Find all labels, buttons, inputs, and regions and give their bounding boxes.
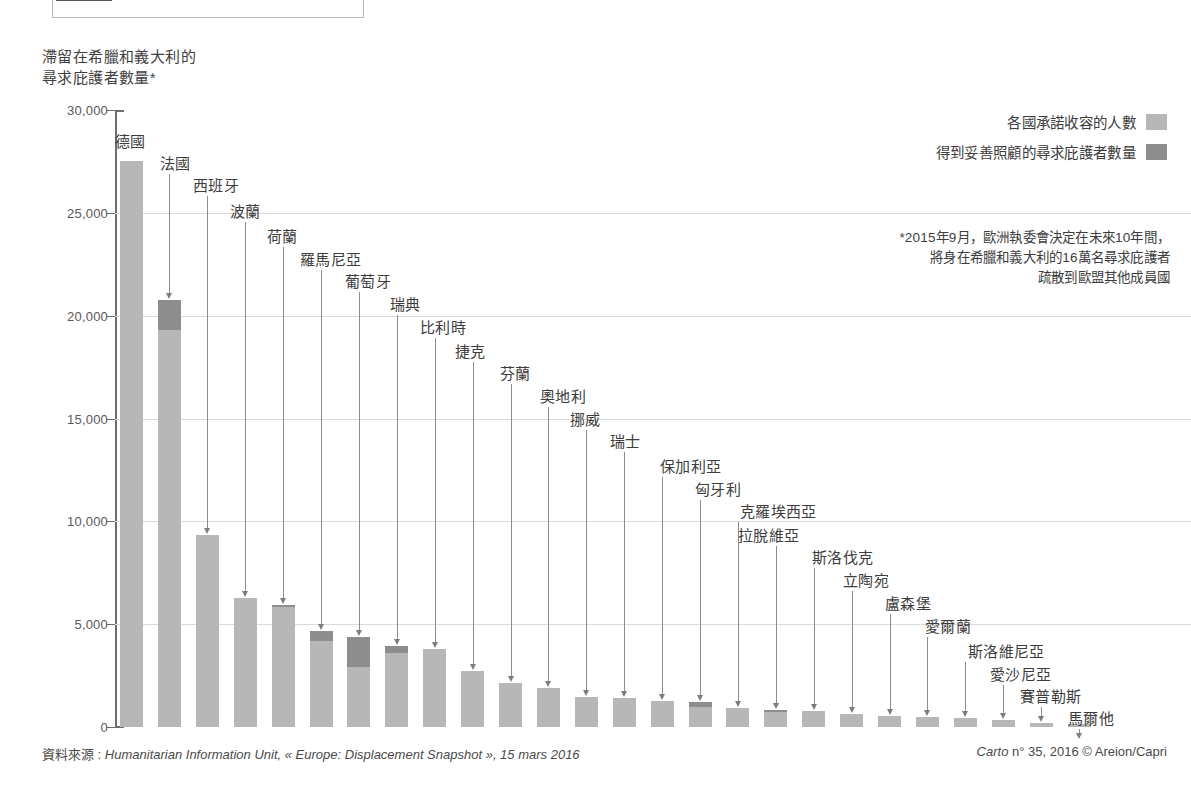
country-label-6: 葡萄牙 (345, 270, 391, 291)
bar-segment-pledged (423, 649, 446, 727)
legend-item-0: 各國承諾收容的人數 (1007, 111, 1167, 132)
leader-arrowhead (318, 624, 324, 630)
bar (802, 711, 825, 727)
bar (272, 605, 295, 727)
source-citation: Humanitarian Information Unit, « Europe:… (105, 747, 580, 762)
leader-arrowhead (1038, 716, 1044, 722)
leader-arrowhead (356, 630, 362, 636)
y-tick-label: 30,000 (36, 103, 108, 118)
footnote-line-1: 將身在希臘和義大利的16萬名尋求庇護者 (700, 248, 1170, 268)
legend-label: 各國承諾收容的人數 (1007, 111, 1136, 132)
source-note: 資料來源 : Humanitarian Information Unit, « … (42, 744, 580, 763)
country-label-18: 斯洛伐克 (812, 546, 873, 567)
country-label-25: 馬爾他 (1068, 707, 1114, 728)
gridline (115, 316, 1191, 317)
country-label-1: 法國 (160, 152, 191, 173)
bar-segment-pledged (234, 598, 257, 727)
leader-line (965, 662, 966, 711)
leader-line (586, 430, 587, 690)
bar (726, 708, 749, 727)
country-label-12: 挪威 (570, 408, 601, 429)
bar (347, 637, 370, 727)
leader-line (927, 637, 928, 710)
bar-segment-relocated (158, 300, 181, 330)
bar (423, 649, 446, 727)
bar-segment-relocated (272, 605, 295, 607)
bar (196, 535, 219, 727)
bar (1030, 723, 1053, 727)
country-label-23: 愛沙尼亞 (990, 663, 1051, 684)
leader-line (283, 247, 284, 598)
country-label-14: 保加利亞 (660, 455, 721, 476)
leader-line (662, 477, 663, 694)
leader-line (738, 522, 739, 701)
legend-item-1: 得到妥善照顧的尋求庇護者數量 (936, 141, 1167, 162)
leader-line (321, 270, 322, 624)
bar (689, 702, 712, 727)
leader-arrowhead (962, 711, 968, 717)
leader-line (359, 292, 360, 630)
bar-segment-pledged (954, 718, 977, 727)
leader-arrowhead (432, 642, 438, 648)
bar (764, 710, 787, 727)
country-label-3: 波蘭 (230, 200, 261, 221)
bar-segment-pledged (726, 708, 749, 727)
leader-arrowhead (697, 695, 703, 701)
country-label-15: 匈牙利 (695, 478, 741, 499)
country-label-11: 奧地利 (540, 385, 586, 406)
leader-line (852, 591, 853, 707)
leader-arrowhead (470, 664, 476, 670)
leader-arrowhead (621, 691, 627, 697)
bar-segment-pledged (992, 720, 1015, 727)
leader-arrowhead (849, 707, 855, 713)
bar (158, 300, 181, 727)
y-axis-cap-top (115, 110, 124, 112)
leader-line (435, 338, 436, 642)
bar (537, 688, 560, 727)
leader-line (473, 362, 474, 664)
country-label-16: 克羅埃西亞 (740, 500, 817, 521)
leader-arrowhead (659, 694, 665, 700)
bar (461, 671, 484, 727)
credit-note: Carto n° 35, 2016 © Areion/Capri (977, 744, 1167, 759)
country-label-4: 荷蘭 (267, 225, 298, 246)
leader-arrowhead (545, 681, 551, 687)
bar (878, 716, 901, 727)
y-tick-label: 10,000 (36, 514, 108, 529)
gridline (115, 419, 1191, 420)
bar-segment-pledged (916, 717, 939, 727)
country-label-2: 西班牙 (193, 174, 239, 195)
footnote-line-0: *2015年9月，歐洲執委會決定在未來10年間， (700, 228, 1170, 248)
bar-segment-pledged (613, 698, 636, 727)
country-label-7: 瑞典 (390, 293, 421, 314)
leader-arrowhead (280, 598, 286, 604)
bar (992, 720, 1015, 727)
country-label-10: 芬蘭 (500, 362, 531, 383)
leader-line (511, 384, 512, 676)
bar-segment-pledged (575, 697, 598, 727)
country-label-21: 愛爾蘭 (925, 615, 971, 636)
bar-segment-pledged (385, 646, 408, 727)
leader-arrowhead (583, 690, 589, 696)
country-label-24: 賽普勒斯 (1020, 685, 1081, 706)
bar-segment-relocated (347, 637, 370, 667)
gridline (115, 521, 1191, 522)
bar-segment-pledged (310, 631, 333, 727)
leader-arrowhead (242, 591, 248, 597)
leader-line (624, 452, 625, 691)
bar-segment-relocated (764, 710, 787, 712)
leader-arrowhead (773, 703, 779, 709)
leader-arrowhead (735, 701, 741, 707)
footnote-line-2: 疏散到歐盟其他成員國 (700, 268, 1170, 288)
leader-line (548, 407, 549, 681)
bar-segment-pledged (840, 714, 863, 727)
leader-line (397, 315, 398, 639)
bar (310, 631, 333, 727)
bar-segment-relocated (689, 702, 712, 707)
leader-arrowhead (1000, 713, 1006, 719)
bar-segment-pledged (537, 688, 560, 727)
leader-arrowhead (811, 704, 817, 710)
leader-arrowhead (1076, 733, 1082, 739)
bar-segment-pledged (461, 671, 484, 727)
bar-segment-pledged (120, 161, 143, 727)
